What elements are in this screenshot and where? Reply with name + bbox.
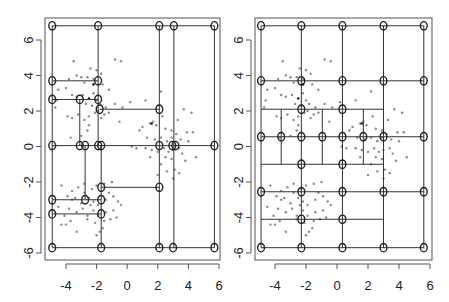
y-tick-label: 2 bbox=[21, 107, 36, 114]
y-tick-label: 6 bbox=[21, 36, 36, 43]
data-points bbox=[263, 58, 408, 236]
x-tick-label: -4 bbox=[60, 278, 72, 293]
x-tick-label: -2 bbox=[91, 278, 103, 293]
y-tick-label: 0 bbox=[231, 143, 246, 150]
chart-canvas: -4-20246-6-4-20246 -4-20246-6-4-20246 bbox=[0, 0, 449, 302]
x-axis: -4-20246 bbox=[269, 264, 433, 293]
y-tick-label: -2 bbox=[21, 176, 36, 188]
y-tick-label: -6 bbox=[231, 247, 246, 259]
x-tick-label: 6 bbox=[426, 278, 433, 293]
x-tick-label: -2 bbox=[300, 278, 312, 293]
y-tick-label: -6 bbox=[21, 247, 36, 259]
x-tick-label: 6 bbox=[215, 278, 222, 293]
y-tick-label: 2 bbox=[231, 107, 246, 114]
x-axis: -4-20246 bbox=[60, 264, 222, 293]
x-tick-label: 2 bbox=[364, 278, 371, 293]
y-tick-label: -2 bbox=[231, 176, 246, 188]
x-tick-label: 2 bbox=[154, 278, 161, 293]
left-plot-panel: -4-20246-6-4-20246 bbox=[21, 18, 223, 293]
x-tick-label: 4 bbox=[395, 278, 402, 293]
right-plot-panel: -4-20246-6-4-20246 bbox=[231, 18, 434, 293]
x-tick-label: -4 bbox=[269, 278, 281, 293]
plot-frame bbox=[45, 18, 220, 260]
y-tick-label: 4 bbox=[231, 72, 246, 79]
x-tick-label: 0 bbox=[124, 278, 131, 293]
x-tick-label: 4 bbox=[185, 278, 192, 293]
y-axis: -6-4-20246 bbox=[21, 36, 42, 258]
y-tick-label: -4 bbox=[231, 212, 246, 224]
y-axis: -6-4-20246 bbox=[231, 36, 252, 258]
partition-lines bbox=[52, 26, 214, 248]
x-tick-label: 0 bbox=[333, 278, 340, 293]
y-tick-label: 6 bbox=[231, 36, 246, 43]
y-tick-label: -4 bbox=[21, 212, 36, 224]
y-tick-label: 0 bbox=[21, 143, 36, 150]
y-tick-label: 4 bbox=[21, 72, 36, 79]
partition-nodes bbox=[49, 22, 218, 252]
